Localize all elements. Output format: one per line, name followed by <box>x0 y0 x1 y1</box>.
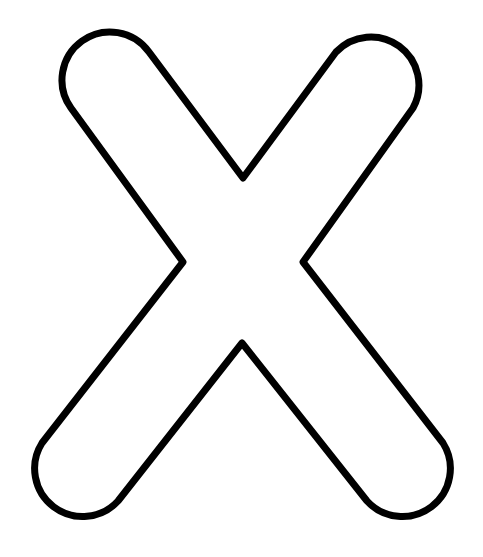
coloring-page-canvas: X <box>0 0 483 557</box>
letter-x-shape <box>35 32 451 517</box>
letter-x-outline-icon <box>0 0 483 557</box>
